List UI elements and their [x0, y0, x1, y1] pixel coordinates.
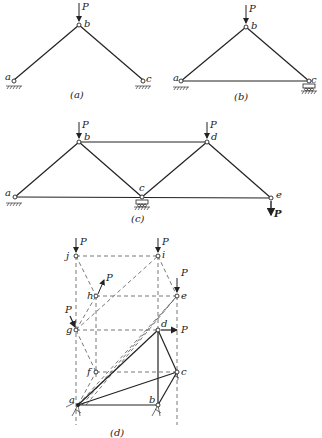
- joint-e: [269, 196, 273, 200]
- joint-label-c: c: [181, 366, 187, 377]
- joint-label-a: a: [5, 71, 11, 82]
- pin-support-icon: [173, 87, 189, 90]
- load-label: P: [161, 236, 169, 247]
- joint-h: [94, 294, 98, 298]
- joint-a: [12, 79, 16, 83]
- load-label: P: [273, 208, 282, 219]
- member-bc: [79, 142, 142, 197]
- joint-label-a: a: [173, 72, 179, 83]
- panel-a: P b a c (a): [5, 1, 152, 100]
- joint-b: [77, 140, 81, 144]
- joint-label-c: c: [311, 74, 317, 85]
- member-ab: [15, 142, 79, 197]
- panel-b: P b a c (b): [173, 3, 317, 102]
- member-ab: [14, 25, 79, 80]
- joint-c: [140, 195, 144, 199]
- load-label: P: [64, 304, 72, 315]
- joint-d: [156, 328, 160, 332]
- pin-support-icon: [6, 203, 22, 206]
- load-label: P: [248, 3, 256, 14]
- load-label: P: [209, 119, 217, 130]
- roller-support-icon: [301, 84, 317, 94]
- caption-d: (d): [110, 427, 124, 438]
- member-bc: [246, 27, 309, 81]
- joint-b: [244, 25, 248, 29]
- joint-label-h: h: [87, 290, 93, 301]
- joint-label-b: b: [84, 131, 90, 142]
- joint-label-b: b: [84, 18, 90, 29]
- joint-c: [307, 79, 311, 83]
- joint-label-d: d: [161, 318, 167, 329]
- load-label: P: [180, 324, 188, 335]
- joint-label-e: e: [181, 290, 187, 301]
- truss-figure: P b a c (a) P b a c: [0, 0, 322, 438]
- load-label: P: [81, 119, 89, 130]
- joint-d: [205, 140, 209, 144]
- joint-label-a: a: [69, 394, 75, 405]
- joint-label-b: b: [149, 394, 155, 405]
- joint-label-d: d: [211, 131, 217, 142]
- joint-j: [74, 254, 78, 258]
- caption-b: (b): [234, 91, 248, 102]
- joint-c: [141, 79, 145, 83]
- panel-c: P P P b d a c e (c): [5, 119, 282, 224]
- construction-lines: [76, 256, 177, 425]
- joint-label-j: j: [64, 250, 69, 261]
- joint-label-g: g: [66, 324, 72, 335]
- joint-e: [175, 294, 179, 298]
- joint-b: [77, 23, 81, 27]
- load-label: P: [180, 267, 188, 278]
- member-bc: [79, 25, 143, 80]
- member-de: [207, 142, 271, 198]
- joint-g: [74, 328, 78, 332]
- joint-label-b: b: [251, 20, 257, 31]
- joint-label-a: a: [5, 187, 11, 198]
- joint-a: [76, 403, 80, 407]
- load-arrow-icon: [98, 280, 104, 294]
- joint-c: [175, 370, 179, 374]
- load-label: P: [105, 272, 113, 283]
- joint-label-c: c: [139, 182, 145, 193]
- member-cd: [142, 142, 207, 197]
- member-cd: [158, 330, 177, 372]
- load-label: P: [81, 1, 89, 12]
- pin-support-icon: [135, 86, 151, 89]
- joint-f: [94, 370, 98, 374]
- member-ab: [181, 27, 246, 81]
- panel-d: P P P P P P j i h e g d f c a b: [64, 236, 188, 438]
- joint-a: [13, 195, 17, 199]
- roller-support-icon: [134, 200, 150, 210]
- joint-b: [156, 403, 160, 407]
- joint-label-i: i: [162, 249, 165, 260]
- load-label: P: [79, 236, 87, 247]
- joint-label-c: c: [146, 73, 152, 84]
- caption-a: (a): [70, 89, 84, 100]
- caption-c: (c): [131, 213, 145, 224]
- pin-support-icon: [6, 86, 22, 89]
- joint-label-f: f: [86, 366, 93, 377]
- joint-a: [179, 79, 183, 83]
- joint-i: [156, 254, 160, 258]
- joint-label-e: e: [276, 189, 282, 200]
